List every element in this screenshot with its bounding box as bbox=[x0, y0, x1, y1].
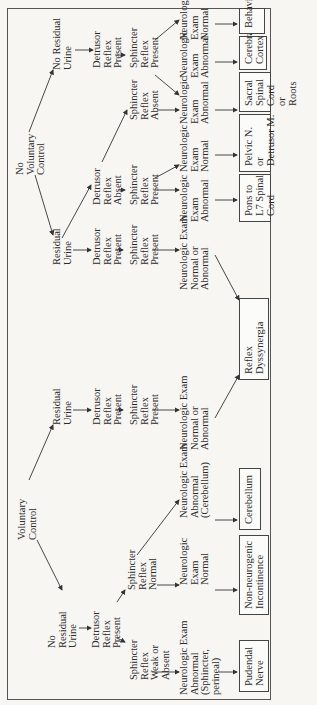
node-detrusor-reflex-present-2: Detrusor Reflex Present bbox=[92, 388, 124, 425]
outcome-reflex-dyssynergia: Reflex Dyssynergia bbox=[239, 298, 269, 380]
outcome-behavior: Behavior bbox=[239, 8, 265, 34]
node-voluntary-control: Voluntary Control bbox=[17, 499, 38, 540]
outcome-non-neurogenic-incontinence: Non-neurogenic Incontinence bbox=[239, 535, 269, 615]
node-nv-nr-neuro-normal: Neurologic Exam Normal bbox=[179, 0, 211, 40]
outcome-pelvic-detrusor: Pelvic N. or Detrusor M. bbox=[239, 114, 271, 172]
node-nv-absent-sphincter-present: Sphincter Reflex Present bbox=[129, 165, 161, 205]
node-neuro-abnormal-cerebellum: Neurologic Exam Abnormal (Cerebellum) bbox=[179, 444, 211, 518]
node-residual-urine: Residual Urine bbox=[52, 388, 73, 425]
node-nv-residual-urine: Residual Urine bbox=[52, 228, 73, 265]
node-no-residual-urine: No Residual Urine bbox=[47, 611, 79, 648]
outcome-pudendal-nerve: Pudendal Nerve bbox=[239, 640, 269, 692]
node-no-voluntary-control: No Voluntary Control bbox=[15, 134, 47, 175]
node-nv-sphincter-absent: Sphincter Reflex Absent bbox=[129, 80, 161, 120]
outcome-cerebral-cortex: Cerebral Cortex bbox=[239, 36, 267, 70]
node-nv-no-residual-urine: No Residual Urine bbox=[52, 18, 73, 70]
node-sphincter-weak-absent: Sphincter Reflex Weak or Absent bbox=[129, 640, 171, 680]
node-nv-nr-detrusor-present: Detrusor Reflex Present bbox=[92, 31, 124, 68]
node-nv-nr-sphincter-present: Sphincter Reflex Present bbox=[129, 28, 161, 68]
node-sphincter-reflex-present: Sphincter Reflex Present bbox=[129, 385, 161, 425]
node-nv-absent-neuro-abnormal: Neurologic Exam Abnormal bbox=[179, 175, 211, 222]
node-nv-sphincter-absent-neuro: Neurologic Exam Abnormal bbox=[179, 77, 211, 124]
node-nv-neuro-normal-or-abnormal: Neurologic Exam Normal or Abnormal bbox=[179, 216, 211, 290]
node-neuro-abnormal-sphincter: Neurologic Exam Abnormal (Sphincter, per… bbox=[179, 621, 221, 695]
node-neuro-normal-or-abnormal: Neurologic Exam Normal or Abnormal bbox=[179, 376, 211, 450]
node-nv-absent-neuro-normal: Neurologic Exam Normal bbox=[179, 125, 211, 172]
node-neuro-normal: Neurologic Exam Normal bbox=[179, 538, 211, 585]
node-detrusor-reflex-present: Detrusor Reflex Present bbox=[91, 611, 123, 648]
flowchart: Voluntary Control No Voluntary Control N… bbox=[7, 8, 271, 700]
outcome-sacral-spinal-cord: Sacral Spinal Cord or Roots bbox=[239, 72, 271, 112]
node-sphincter-normal: Sphincter Reflex Normal bbox=[127, 550, 159, 590]
outcome-cerebellum: Cerebellum bbox=[239, 468, 261, 530]
node-nv-detrusor-absent: Detrusor Reflex Absent bbox=[92, 168, 124, 205]
outcome-pons-l7: Pons to L7 Spinal Cord bbox=[239, 174, 271, 222]
node-nv-sphincter-present: Sphincter Reflex Present bbox=[129, 225, 161, 265]
node-nv-detrusor-present: Detrusor Reflex Present bbox=[92, 228, 124, 265]
